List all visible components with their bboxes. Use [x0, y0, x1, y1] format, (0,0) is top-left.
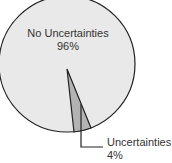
label-no-uncertainties-name: No Uncertainties [18, 27, 118, 40]
label-uncertainties: Uncertainties 4% [107, 136, 171, 162]
label-uncertainties-name: Uncertainties [107, 136, 171, 149]
label-no-uncertainties: No Uncertainties 96% [18, 27, 118, 53]
pie-slice-no-uncertainties [0, 0, 135, 132]
label-no-uncertainties-pct: 96% [18, 40, 118, 53]
label-uncertainties-pct: 4% [107, 149, 171, 162]
